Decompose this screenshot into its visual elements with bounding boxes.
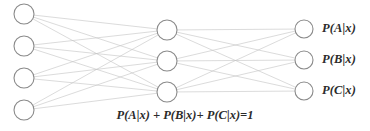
output-layer-nodes	[295, 20, 313, 100]
edge-hidden-output-3-3	[177, 91, 295, 92]
hidden-layer-nodes	[157, 20, 177, 102]
edge-input-hidden-3-2	[34, 62, 157, 77]
edge-input-hidden-3-3	[34, 79, 157, 91]
output-node-3	[295, 82, 313, 100]
edge-input-hidden-4-1	[33, 35, 159, 105]
input-layer-nodes	[14, 4, 34, 120]
output-label-c: P(C|x)	[322, 83, 356, 98]
hidden-node-1	[157, 20, 177, 40]
edge-input-hidden-1-1	[34, 15, 157, 29]
output-label-a: P(A|x)	[322, 21, 356, 36]
edge-input-hidden-3-1	[33, 33, 157, 75]
probability-sum-equation: P(A|x) + P(B|x)+ P(C|x)=1	[0, 108, 370, 123]
edge-input-hidden-1-3	[33, 19, 158, 87]
neural-network-diagram: P(A|x) P(B|x) P(C|x) P(A|x) + P(B|x)+ P(…	[0, 0, 370, 131]
edge-input-hidden-4-3	[34, 93, 157, 109]
input-node-3	[14, 68, 34, 88]
input-node-1	[14, 4, 34, 24]
edge-input-hidden-2-2	[34, 47, 157, 60]
edge-input-hidden-2-1	[34, 31, 157, 45]
edge-hidden-output-2-1	[177, 31, 295, 59]
output-node-1	[295, 20, 313, 38]
edge-hidden-output-3-2	[177, 62, 295, 90]
edge-input-hidden-2-3	[34, 49, 158, 89]
hidden-node-2	[157, 51, 177, 71]
output-label-b: P(B|x)	[322, 52, 356, 67]
edge-hidden-output-1-1	[177, 29, 295, 30]
output-node-2	[295, 51, 313, 69]
edges-hidden-to-output	[176, 29, 296, 92]
edges-input-to-hidden	[33, 15, 159, 109]
edge-input-hidden-1-2	[34, 17, 158, 58]
input-node-2	[14, 36, 34, 56]
hidden-node-3	[157, 82, 177, 102]
edge-input-hidden-4-2	[33, 64, 157, 107]
